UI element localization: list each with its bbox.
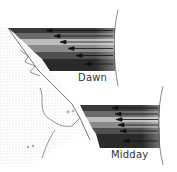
midday-label: Midday xyxy=(111,149,148,160)
sunlight-atmosphere-diagram xyxy=(0,0,177,172)
dawn-label: Dawn xyxy=(78,72,107,83)
